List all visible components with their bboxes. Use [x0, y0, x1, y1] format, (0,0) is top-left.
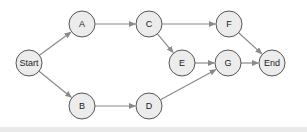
node-a: A: [69, 11, 95, 37]
nodes: StartACFEGEndBD: [16, 11, 285, 119]
edge-f-end: [239, 33, 262, 54]
node-label: A: [79, 19, 85, 29]
node-c: C: [136, 11, 162, 37]
edge-c-e: [157, 34, 173, 52]
node-end: End: [259, 50, 285, 76]
node-label: C: [146, 19, 153, 29]
node-label: E: [179, 58, 185, 68]
node-e: E: [169, 50, 195, 76]
node-label: F: [226, 19, 232, 29]
node-label: Start: [19, 58, 39, 68]
node-label: D: [146, 101, 153, 111]
graph-canvas: StartACFEGEndBD: [0, 0, 307, 132]
node-start: Start: [16, 50, 42, 76]
node-label: End: [264, 58, 280, 68]
node-label: G: [224, 58, 231, 68]
node-label: B: [79, 101, 85, 111]
edge-start-b: [39, 71, 71, 97]
edge-start-a: [39, 32, 70, 55]
node-b: B: [69, 93, 95, 119]
node-f: F: [216, 11, 242, 37]
node-g: G: [215, 50, 241, 76]
node-d: D: [136, 93, 162, 119]
